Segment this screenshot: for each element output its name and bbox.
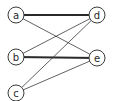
node-label: b xyxy=(13,52,19,63)
node-label: a xyxy=(13,10,19,21)
node-e: e xyxy=(89,50,105,66)
edge-c-d xyxy=(16,15,97,93)
edge-b-e xyxy=(16,57,97,58)
edges-layer xyxy=(16,15,97,93)
node-label: d xyxy=(94,10,100,21)
node-b: b xyxy=(8,49,24,65)
edge-c-e xyxy=(16,58,97,93)
node-label: e xyxy=(94,53,100,64)
node-a: a xyxy=(8,7,24,23)
node-label: c xyxy=(13,88,19,99)
node-c: c xyxy=(8,85,24,101)
node-d: d xyxy=(89,7,105,23)
bipartite-graph: abcde xyxy=(0,0,114,101)
